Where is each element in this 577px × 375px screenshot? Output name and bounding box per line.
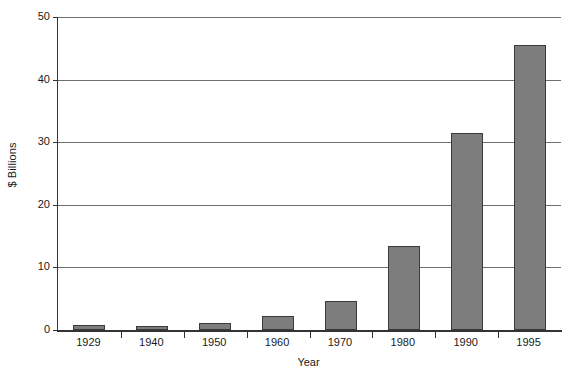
x-axis-title: Year	[57, 356, 560, 368]
y-axis-tick-label: 20	[24, 199, 50, 210]
plot-area	[57, 17, 561, 330]
bar-1960	[262, 316, 294, 330]
y-axis-tick-labels: 01020304050	[24, 17, 50, 330]
y-axis-tick-label: 40	[24, 74, 50, 85]
x-axis-tick-label: 1990	[434, 336, 497, 349]
y-axis-tick-mark	[53, 330, 58, 331]
y-axis-tick-mark	[53, 80, 58, 81]
x-axis-tick-label: 1960	[246, 336, 309, 349]
y-axis-tick-label: 30	[24, 136, 50, 147]
x-axis-tick-label: 1995	[497, 336, 560, 349]
y-axis-title-text: $ Billions	[6, 142, 18, 187]
bar-1990	[451, 133, 483, 330]
y-axis-tick-mark	[53, 205, 58, 206]
y-axis-tick-label: 50	[24, 11, 50, 22]
x-axis-tick-label: 1970	[309, 336, 372, 349]
x-axis-tick-labels: 19291940195019601970198019901995	[57, 336, 560, 352]
y-axis-tick-mark	[53, 267, 58, 268]
x-axis-tick-label: 1980	[371, 336, 434, 349]
y-axis-tick-mark	[53, 17, 58, 18]
bar-1995	[514, 45, 546, 330]
bar-1980	[388, 246, 420, 330]
bars-group	[58, 17, 561, 330]
y-axis-tick-mark	[53, 142, 58, 143]
x-axis-tick-label: 1940	[120, 336, 183, 349]
y-axis-tick-label: 0	[24, 324, 50, 335]
y-axis-tick-label: 10	[24, 261, 50, 272]
x-axis-tick-label: 1929	[57, 336, 120, 349]
bar-chart: $ Billions 01020304050 19291940195019601…	[0, 0, 577, 375]
x-axis-tick-label: 1950	[183, 336, 246, 349]
bar-1950	[199, 323, 231, 331]
y-axis-title: $ Billions	[0, 0, 24, 330]
bar-1970	[325, 301, 357, 330]
